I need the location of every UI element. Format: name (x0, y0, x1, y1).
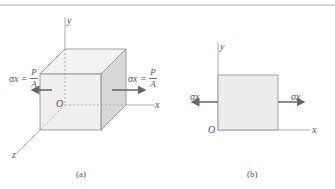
right-stress-symbol-a: σx = (128, 74, 147, 84)
origin-label-b: O (208, 125, 215, 135)
numerator: P (30, 68, 38, 77)
denominator: A (30, 80, 38, 89)
stress-diagrams (0, 0, 335, 189)
right-stress-label-b: σx (291, 92, 300, 102)
square-figure (192, 42, 310, 130)
x-axis-label-a: x (155, 100, 159, 110)
caption-a: (a) (76, 170, 86, 179)
left-stress-fraction-a: P A (30, 68, 38, 89)
y-axis-label-a: y (67, 16, 71, 26)
left-stress-symbol-a: σx = (9, 74, 28, 84)
denominator: A (149, 80, 157, 89)
x-axis-label-b: x (312, 125, 316, 135)
z-axis-label-a: z (12, 150, 16, 160)
right-stress-fraction-a: P A (149, 68, 157, 89)
numerator: P (149, 68, 157, 77)
left-stress-label-b: σx (190, 92, 199, 102)
y-axis-label-b: y (220, 42, 224, 52)
origin-label-a: O (56, 99, 63, 109)
caption-b: (b) (247, 170, 258, 179)
